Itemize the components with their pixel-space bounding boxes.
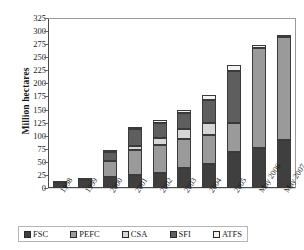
y-axis-tick-label: 325: [16, 14, 46, 23]
legend-label: FSC: [33, 230, 48, 239]
bar-segment: [103, 150, 117, 152]
y-axis-tick-labels: 3253002752502252001751501251007550250: [16, 12, 46, 194]
bar-segment: [177, 113, 191, 129]
legend-label: CSA: [131, 230, 148, 239]
y-axis-tick-label: 300: [16, 27, 46, 36]
stacked-bar-chart: Million hectares 32530027525022520017515…: [0, 0, 304, 250]
bar-segment: [103, 152, 117, 161]
bar-segment: [153, 120, 167, 123]
y-axis-tick-label: 250: [16, 53, 46, 62]
legend-swatch-icon: [24, 231, 31, 238]
y-axis-tick-label: 125: [16, 119, 46, 128]
bar-segment: [202, 100, 216, 124]
y-axis-tick-label: 50: [16, 158, 46, 167]
bar-segment: [227, 123, 241, 152]
bar-segment: [202, 95, 216, 100]
bar-segment: [177, 129, 191, 139]
bar-segment: [128, 150, 142, 176]
legend-item[interactable]: FSC: [24, 230, 48, 239]
bars-layer: [48, 18, 296, 188]
legend-swatch-icon: [170, 231, 177, 238]
y-axis-tick-label: 225: [16, 66, 46, 75]
x-axis-tick-labels: 19981999200020012002200320042005May 2006…: [48, 188, 296, 222]
bar-group: [277, 18, 291, 188]
bar-segment: [128, 127, 142, 130]
legend-item[interactable]: PEFC: [70, 230, 99, 239]
bar-segment: [252, 48, 266, 148]
legend-label: ATFS: [222, 230, 242, 239]
y-axis-tick-label: 175: [16, 92, 46, 101]
bar-segment: [128, 129, 142, 145]
bar-group: [202, 18, 216, 188]
y-axis-tick-label: 0: [16, 184, 46, 193]
bar-group: [153, 18, 167, 188]
legend-item[interactable]: ATFS: [213, 230, 242, 239]
legend-item[interactable]: CSA: [122, 230, 148, 239]
bar-group: [128, 18, 142, 188]
legend-swatch-icon: [213, 231, 220, 238]
y-axis-tick-label: 100: [16, 132, 46, 141]
legend-label: SFI: [179, 230, 191, 239]
bar-segment: [252, 45, 266, 48]
bar-group: [53, 18, 67, 188]
bar-group: [252, 18, 266, 188]
bar-segment: [153, 123, 167, 139]
bar-segment: [128, 146, 142, 150]
bar-group: [177, 18, 191, 188]
y-axis-tick-label: 200: [16, 79, 46, 88]
bar-group: [227, 18, 241, 188]
legend-swatch-icon: [70, 231, 77, 238]
bar-segment: [153, 145, 167, 173]
bar-segment: [177, 110, 191, 114]
y-axis-tick-label: 25: [16, 171, 46, 180]
y-axis-tick-label: 275: [16, 40, 46, 49]
chart-legend: FSCPEFCCSASFIATFS: [18, 226, 248, 242]
bar-segment: [227, 71, 241, 123]
bar-segment: [153, 138, 167, 145]
bar-segment: [202, 135, 216, 165]
bar-segment: [177, 139, 191, 168]
y-axis-tick-label: 150: [16, 106, 46, 115]
bar-segment: [277, 37, 291, 140]
bar-segment: [277, 35, 291, 38]
legend-item[interactable]: SFI: [170, 230, 191, 239]
y-axis-tick-label: 75: [16, 145, 46, 154]
bar-segment: [202, 123, 216, 135]
bar-segment: [227, 65, 241, 71]
bar-segment: [103, 161, 117, 177]
legend-swatch-icon: [122, 231, 129, 238]
legend-label: PEFC: [79, 230, 99, 239]
bar-group: [103, 18, 117, 188]
bar-group: [78, 18, 92, 188]
